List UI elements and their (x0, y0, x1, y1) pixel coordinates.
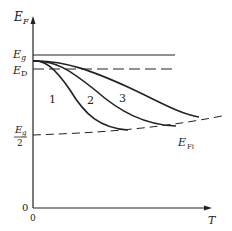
svg-text:E: E (177, 136, 186, 149)
x-axis-label: T (208, 214, 217, 227)
svg-text:E: E (12, 48, 21, 61)
y-zero-label: 0 (22, 202, 28, 213)
efi-label: E Fi (177, 136, 195, 151)
svg-text:F: F (22, 17, 29, 26)
svg-text:Fi: Fi (187, 143, 195, 151)
svg-text:E: E (12, 64, 21, 77)
curve-1 (33, 61, 128, 130)
fermi-level-chart: E F E g E D E g 2 0 0 T 1 2 3 E Fi (0, 0, 232, 231)
eg-half-label: E g 2 (14, 124, 27, 148)
svg-text:2: 2 (17, 138, 23, 148)
svg-text:E: E (13, 10, 23, 24)
curve-2-label: 2 (87, 94, 94, 107)
curve-1-label: 1 (49, 93, 56, 106)
svg-text:D: D (21, 69, 27, 78)
eg-label: E g (12, 48, 26, 62)
x-zero-label: 0 (30, 213, 36, 223)
y-axis-arrow-icon (31, 16, 36, 24)
svg-text:g: g (21, 53, 26, 62)
efi-curve (33, 116, 222, 135)
svg-text:g: g (22, 129, 27, 137)
x-axis-arrow-icon (204, 206, 212, 211)
ed-label: E D (12, 64, 27, 78)
curve-3-label: 3 (119, 92, 126, 105)
y-axis-label: E F (13, 10, 29, 26)
